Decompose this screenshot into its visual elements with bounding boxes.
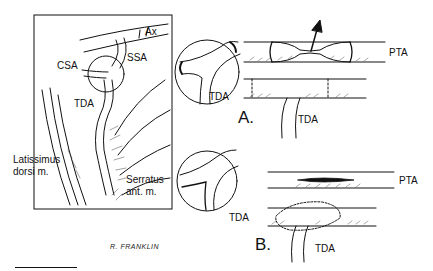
label-serratus-2: ant. m. xyxy=(126,186,157,198)
label-ssa: SSA xyxy=(127,52,147,64)
scale-bar xyxy=(15,267,77,268)
panel-b-label-tda: TDA xyxy=(315,243,335,255)
panel-a-label-pta: PTA xyxy=(389,47,408,59)
label-tda: TDA xyxy=(74,98,94,110)
artist-signature: R. FRANKLIN xyxy=(110,243,159,250)
panel-a-letter: A. xyxy=(238,109,254,127)
panel-a-label-tda: TDA xyxy=(298,114,318,126)
panel-b-label-pta: PTA xyxy=(399,175,418,187)
inset-a-label-tda: TDA xyxy=(209,91,229,103)
label-latissimus-2: dorsi m. xyxy=(13,166,49,178)
inset-b-label-tda: TDA xyxy=(229,212,249,224)
label-latissimus: Latissimus xyxy=(13,154,60,166)
illustration-canvas xyxy=(0,0,433,271)
label-serratus: Serratus xyxy=(126,174,164,186)
panel-b-letter: B. xyxy=(255,236,271,254)
label-ax: Ax xyxy=(145,26,157,38)
label-csa: CSA xyxy=(57,60,78,72)
